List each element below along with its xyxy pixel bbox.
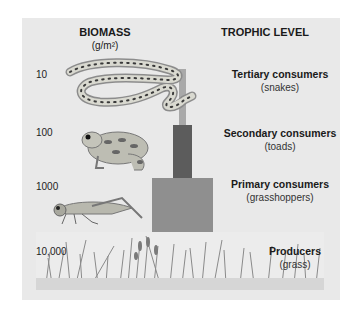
level-label-tertiary: Tertiary consumers (snakes) [220,68,340,94]
level-label-producers: Producers (grass) [250,245,340,271]
biomass-value-secondary: 100 [36,127,53,138]
level-label-secondary: Secondary consumers (toads) [220,127,340,153]
level-title: Tertiary consumers [220,68,340,81]
level-label-primary: Primary consumers (grasshoppers) [220,178,340,204]
trophic-level-header: TROPHIC LEVEL [205,26,325,38]
level-title: Primary consumers [220,178,340,191]
level-subtitle: (snakes) [220,81,340,94]
level-title: Secondary consumers [220,127,340,140]
snake-icon [50,58,195,113]
biomass-value-tertiary: 10 [36,69,47,80]
biomass-value-producers: 10,000 [36,246,67,257]
level-subtitle: (toads) [220,140,340,153]
toad-icon [78,124,158,174]
level-subtitle: (grasshoppers) [220,191,340,204]
biomass-header: BIOMASS [60,26,150,38]
level-subtitle: (grass) [250,258,340,271]
bar-secondary-consumers [173,125,192,178]
bar-primary-consumers [152,178,213,232]
level-title: Producers [250,245,340,258]
biomass-value-primary: 1000 [36,181,58,192]
biomass-unit: (g/m²) [60,40,150,51]
grasshopper-icon [52,192,152,228]
ground [36,278,324,290]
